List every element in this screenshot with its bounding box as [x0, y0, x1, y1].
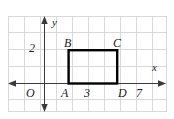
vertex-label-d: D — [118, 87, 127, 99]
vertex-label-c: C — [113, 37, 121, 49]
vertex-label-a: A — [61, 87, 68, 99]
y-tick-label-2: 2 — [29, 42, 35, 54]
figure-background — [0, 0, 174, 119]
y-axis-label: y — [52, 17, 57, 28]
grid-canvas — [0, 0, 174, 119]
coordinate-grid-figure: y x O B C A D 3 7 2 — [0, 0, 174, 119]
origin-label: O — [26, 87, 35, 99]
x-axis-label: x — [152, 62, 157, 73]
x-tick-label-3: 3 — [84, 87, 90, 99]
vertex-label-b: B — [64, 37, 71, 49]
x-tick-label-7: 7 — [136, 87, 142, 99]
